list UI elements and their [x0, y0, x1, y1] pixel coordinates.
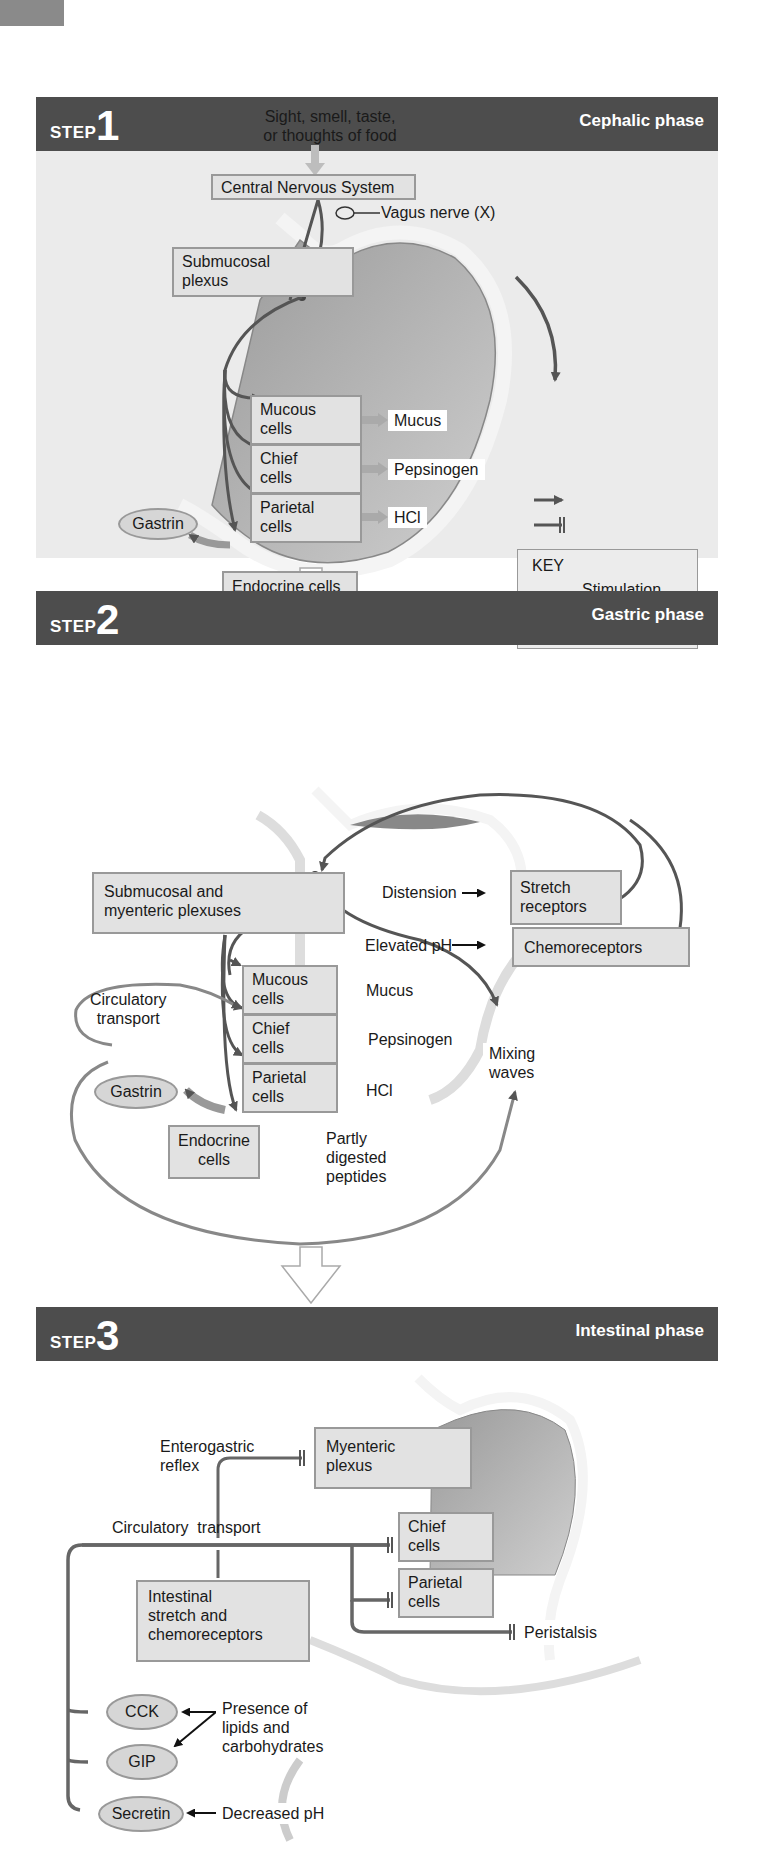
chief3-line2: cells — [408, 1536, 484, 1555]
mucous-line2: cells — [260, 419, 352, 438]
mucous2-line1: Mucous — [252, 970, 328, 989]
step2-pepsinogen-label: Pepsinogen — [368, 1030, 453, 1049]
vagus-nerve-label: Vagus nerve (X) — [381, 203, 495, 222]
intestinal-line3: chemoreceptors — [148, 1625, 298, 1644]
lipids-line3: carbohydrates — [222, 1737, 323, 1756]
circulatory-line2: transport — [90, 1009, 166, 1028]
step1-stimulus: Sight, smell, taste, or thoughts of food — [240, 107, 420, 145]
lipids-line2: lipids and — [222, 1718, 323, 1737]
chemoreceptors-box: Chemoreceptors — [512, 927, 690, 967]
plexuses-box: Submucosal and myenteric plexuses — [92, 872, 345, 934]
circulatory-line1: Circulatory — [90, 990, 166, 1009]
step1-gastrin-oval: Gastrin — [118, 508, 198, 540]
step2-number: 2 — [96, 599, 119, 641]
step2-header: STEP 2 Gastric phase — [36, 591, 718, 645]
gip-oval: GIP — [106, 1744, 178, 1780]
step1-mucus-label: Mucus — [388, 410, 447, 431]
step1-number: 1 — [96, 105, 119, 147]
step1-step-word: STEP — [50, 123, 96, 143]
parietal3-line1: Parietal — [408, 1573, 484, 1592]
stretch-line1: Stretch — [520, 878, 612, 897]
parietal-line1: Parietal — [260, 498, 352, 517]
enterogastric-reflex-label: Enterogastric reflex — [160, 1437, 254, 1475]
myenteric-plexus-box: Myenteric plexus — [314, 1427, 472, 1489]
peristalsis-label: Peristalsis — [516, 1620, 605, 1645]
distension-label: Distension — [382, 883, 457, 902]
lipids-carbohydrates-label: Presence of lipids and carbohydrates — [216, 1698, 329, 1757]
step3-number: 3 — [96, 1315, 119, 1357]
enterogastric-line1: Enterogastric — [160, 1437, 254, 1456]
intestinal-line1: Intestinal — [148, 1587, 298, 1606]
stretch-line2: receptors — [520, 897, 612, 916]
peptides-line3: peptides — [326, 1167, 387, 1186]
decreased-ph-label: Decreased pH — [216, 1803, 330, 1824]
step3-header: STEP 3 Intestinal phase — [36, 1307, 718, 1361]
parietal-line2: cells — [260, 517, 352, 536]
step3-parietal-cells-box: Parietal cells — [398, 1568, 494, 1618]
mixing-waves-label: Mixing waves — [483, 1043, 541, 1083]
submucosal-plexus-box: Submucosal plexus — [172, 247, 354, 297]
plexuses-line2: myenteric plexuses — [104, 901, 333, 920]
cck-oval: CCK — [106, 1694, 178, 1730]
stimulus-line2: or thoughts of food — [240, 126, 420, 145]
cns-box: Central Nervous System — [211, 174, 416, 200]
parietal3-line2: cells — [408, 1592, 484, 1611]
chief-line2: cells — [260, 468, 352, 487]
submucosal-line1: Submucosal — [182, 252, 344, 271]
myenteric-line1: Myenteric — [326, 1437, 460, 1456]
chief2-line2: cells — [252, 1038, 328, 1057]
elevated-ph-label: Elevated pH — [365, 936, 452, 955]
intestinal-line2: stretch and — [148, 1606, 298, 1625]
step1-mucous-cells-box: Mucous cells — [250, 395, 362, 445]
peptides-line1: Partly — [326, 1129, 387, 1148]
chief2-line1: Chief — [252, 1019, 328, 1038]
step2-mucus-label: Mucus — [366, 981, 413, 1000]
step3-phase-title: Intestinal phase — [576, 1321, 704, 1341]
step2-mucous-cells-box: Mucous cells — [242, 965, 338, 1015]
step2-step-word: STEP — [50, 617, 96, 637]
lipids-line1: Presence of — [222, 1699, 323, 1718]
step1-pepsinogen-label: Pepsinogen — [388, 459, 485, 480]
step2-chief-cells-box: Chief cells — [242, 1014, 338, 1064]
step2-gastrin-oval: Gastrin — [94, 1075, 178, 1109]
step2-endocrine-cells-box: Endocrine cells — [168, 1125, 260, 1179]
mixing-line2: waves — [489, 1063, 535, 1082]
myenteric-line2: plexus — [326, 1456, 460, 1475]
submucosal-line2: plexus — [182, 271, 344, 290]
mixing-line1: Mixing — [489, 1044, 535, 1063]
step2-hcl-label: HCl — [366, 1081, 393, 1100]
mucous2-line2: cells — [252, 989, 328, 1008]
step3-circulatory-transport-label: Circulatory transport — [112, 1518, 261, 1537]
corner-tab — [0, 0, 64, 26]
step3-step-word: STEP — [50, 1333, 96, 1353]
endocrine2-line2: cells — [176, 1150, 252, 1169]
step1-panel — [36, 151, 718, 558]
enterogastric-line2: reflex — [160, 1456, 254, 1475]
mucous-line1: Mucous — [260, 400, 352, 419]
chief-line1: Chief — [260, 449, 352, 468]
step2-parietal-cells-box: Parietal cells — [242, 1063, 338, 1113]
partly-digested-peptides-label: Partly digested peptides — [320, 1128, 393, 1187]
plexuses-line1: Submucosal and — [104, 882, 333, 901]
intestinal-receptors-box: Intestinal stretch and chemoreceptors — [136, 1580, 310, 1662]
secretin-oval: Secretin — [98, 1796, 184, 1832]
stretch-receptors-box: Stretch receptors — [510, 870, 622, 925]
step1-hcl-label: HCl — [388, 507, 427, 528]
endocrine2-line1: Endocrine — [176, 1131, 252, 1150]
parietal2-line1: Parietal — [252, 1068, 328, 1087]
step1-chief-cells-box: Chief cells — [250, 444, 362, 494]
peptides-line2: digested — [326, 1148, 387, 1167]
stimulus-line1: Sight, smell, taste, — [240, 107, 420, 126]
chief3-line1: Chief — [408, 1517, 484, 1536]
step3-chief-cells-box: Chief cells — [398, 1512, 494, 1562]
step1-phase-title: Cephalic phase — [579, 111, 704, 131]
key-title: KEY — [532, 556, 564, 575]
step1-parietal-cells-box: Parietal cells — [250, 493, 362, 543]
circulatory-transport-label: Circulatory transport — [90, 990, 166, 1028]
step2-phase-title: Gastric phase — [592, 605, 704, 625]
parietal2-line2: cells — [252, 1087, 328, 1106]
